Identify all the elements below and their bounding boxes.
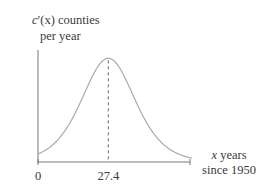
x-axis-label-line1: x years <box>210 148 246 162</box>
rate-curve <box>38 58 192 158</box>
x-axis-label-line2: since 1950 <box>202 163 256 177</box>
y-axis-label-line1: c′(x) counties <box>32 13 100 27</box>
x-tick-label-peak: 27.4 <box>97 169 120 183</box>
chart: c′(x) counties per year 0 27.4 x years s… <box>0 0 260 192</box>
y-axis-label-line2: per year <box>40 29 81 43</box>
x-tick-label-0: 0 <box>35 169 41 183</box>
